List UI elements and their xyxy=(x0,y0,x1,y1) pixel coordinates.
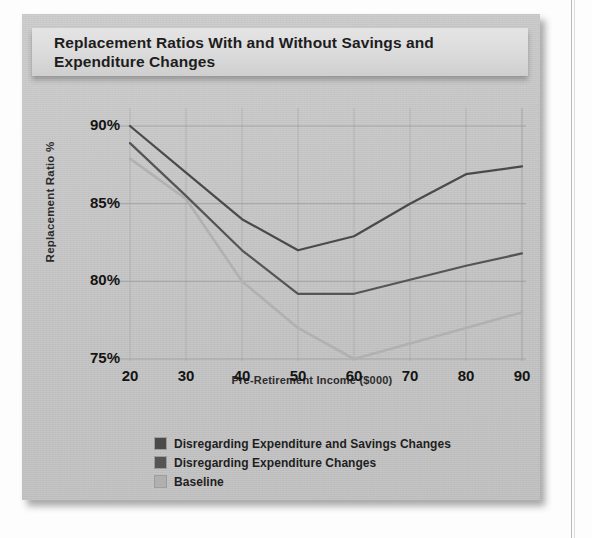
y-axis-tick-label: 85% xyxy=(62,194,120,211)
legend-item-label: Baseline xyxy=(174,475,224,489)
chart-legend: Disregarding Expenditure and Savings Cha… xyxy=(155,434,451,491)
figure-panel: Replacement Ratios With and Without Savi… xyxy=(22,14,540,500)
legend-item: Disregarding Expenditure Changes xyxy=(155,453,451,472)
legend-item: Baseline xyxy=(155,472,451,491)
legend-item-label: Disregarding Expenditure Changes xyxy=(174,456,376,470)
chart-plot-svg xyxy=(22,14,540,500)
x-axis-tick-label: 50 xyxy=(278,367,318,384)
scan-edge-line xyxy=(571,0,572,538)
legend-swatch-icon xyxy=(155,457,166,468)
legend-swatch-icon xyxy=(155,476,166,487)
x-axis-tick-label: 30 xyxy=(166,367,206,384)
x-axis-tick-label: 60 xyxy=(334,367,374,384)
x-axis-tick-label: 90 xyxy=(502,367,542,384)
y-axis-tick-label: 75% xyxy=(62,349,120,366)
legend-item-label: Disregarding Expenditure and Savings Cha… xyxy=(174,437,451,451)
x-axis-tick-label: 80 xyxy=(446,367,486,384)
plot-area: Replacement Ratio % Pre-Retirement Incom… xyxy=(22,14,540,500)
y-axis-tick-label: 90% xyxy=(62,116,120,133)
x-axis-tick-label: 20 xyxy=(110,367,150,384)
legend-swatch-icon xyxy=(155,438,166,449)
x-axis-tick-label: 70 xyxy=(390,367,430,384)
y-axis-tick-label: 80% xyxy=(62,271,120,288)
scan-edge-line-secondary xyxy=(574,0,575,538)
legend-item: Disregarding Expenditure and Savings Cha… xyxy=(155,434,451,453)
x-axis-tick-label: 40 xyxy=(222,367,262,384)
